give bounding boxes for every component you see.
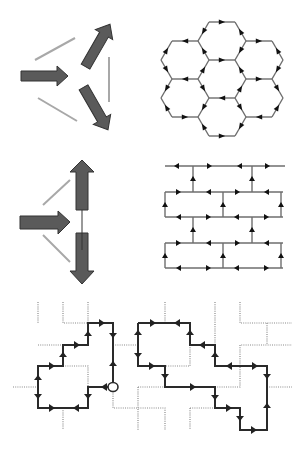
arrowhead-icon bbox=[200, 67, 205, 74]
arrowhead-up-icon bbox=[190, 227, 196, 232]
arrowhead-icon bbox=[163, 48, 168, 55]
arrowhead-left-icon bbox=[264, 240, 269, 246]
panel-d-brick-lattice bbox=[162, 163, 285, 271]
arrowhead-left-icon bbox=[237, 163, 242, 169]
panel-b-hex-lattice bbox=[161, 19, 283, 138]
arrowhead-left-icon bbox=[176, 265, 181, 271]
arrowhead-icon bbox=[219, 19, 225, 24]
arrowhead-left-icon bbox=[199, 341, 205, 349]
arrowhead-icon bbox=[274, 105, 279, 112]
panel-e-loop-grid bbox=[13, 302, 292, 434]
panel-a-three-arrows bbox=[21, 19, 119, 135]
arrowhead-icon bbox=[276, 48, 281, 55]
arrowhead-right-icon bbox=[206, 265, 211, 271]
up-right-arrow-icon bbox=[77, 19, 119, 71]
arrowhead-down-icon bbox=[134, 353, 142, 358]
arrowhead-up-icon bbox=[249, 176, 255, 181]
arrowhead-up-icon bbox=[249, 227, 255, 232]
arrowhead-right-icon bbox=[176, 189, 181, 195]
arrowhead-left-icon bbox=[264, 189, 269, 195]
arrowhead-down-icon bbox=[263, 374, 271, 379]
arrowhead-down-icon bbox=[84, 394, 92, 399]
arrowhead-icon bbox=[182, 114, 188, 119]
arrowhead-up-icon bbox=[263, 403, 271, 408]
arrowhead-up-icon bbox=[278, 202, 284, 207]
arrowhead-up-icon bbox=[84, 331, 92, 336]
arrowhead-icon bbox=[219, 133, 225, 138]
arrowhead-icon bbox=[276, 65, 281, 72]
arrowhead-left-icon bbox=[226, 362, 232, 370]
arrowhead-right-icon bbox=[207, 163, 212, 169]
arrowhead-up-icon bbox=[190, 176, 196, 181]
arrowhead-down-icon bbox=[161, 374, 169, 379]
arrowhead-up-icon bbox=[220, 202, 226, 207]
arrowhead-right-icon bbox=[149, 362, 155, 370]
up-arrow-icon bbox=[70, 160, 94, 210]
arrowhead-down-icon bbox=[211, 395, 219, 400]
arrowhead-right-icon bbox=[265, 163, 270, 169]
right-arrow-icon bbox=[20, 211, 70, 234]
arrowhead-icon bbox=[202, 103, 207, 110]
arrowhead-up-icon bbox=[59, 352, 67, 357]
arrowhead-left-icon bbox=[73, 404, 79, 412]
arrowhead-icon bbox=[182, 38, 188, 43]
arrowhead-right-icon bbox=[251, 426, 257, 434]
arrowhead-right-icon bbox=[74, 341, 80, 349]
arrowhead-icon bbox=[165, 105, 170, 112]
arrowhead-up-icon bbox=[278, 253, 284, 258]
right-arrow-icon bbox=[21, 66, 68, 86]
arrowhead-up-icon bbox=[162, 202, 168, 207]
loop-path-right bbox=[138, 323, 267, 430]
arrowhead-icon bbox=[202, 124, 207, 131]
arrowhead-right-icon bbox=[176, 240, 181, 246]
arrowhead-right-icon bbox=[99, 319, 105, 327]
gray-edge-line bbox=[35, 38, 75, 60]
gray-edge-line bbox=[38, 98, 77, 121]
arrowhead-left-icon bbox=[234, 214, 239, 220]
panel-c-split-arrows bbox=[20, 160, 94, 284]
arrowhead-icon bbox=[219, 95, 225, 100]
arrowhead-up-icon bbox=[162, 253, 168, 258]
arrowhead-right-icon bbox=[49, 404, 55, 412]
arrowhead-right-icon bbox=[150, 319, 156, 327]
arrowhead-left-icon bbox=[206, 240, 211, 246]
arrowhead-icon bbox=[239, 29, 244, 36]
arrowhead-left-icon bbox=[234, 265, 239, 271]
arrowhead-right-icon bbox=[235, 189, 240, 195]
arrowhead-icon bbox=[202, 27, 207, 34]
arrowhead-icon bbox=[256, 38, 262, 43]
arrowhead-icon bbox=[239, 67, 244, 74]
arrowhead-icon bbox=[239, 122, 244, 129]
arrowhead-right-icon bbox=[264, 214, 269, 220]
arrowhead-icon bbox=[165, 84, 170, 91]
arrowhead-icon bbox=[200, 84, 205, 91]
arrowhead-right-icon bbox=[264, 265, 269, 271]
arrowhead-up-icon bbox=[134, 330, 142, 335]
arrowhead-right-icon bbox=[235, 240, 240, 246]
arrowhead-down-icon bbox=[34, 394, 42, 399]
figure-canvas bbox=[0, 0, 306, 453]
start-marker-circle bbox=[108, 383, 118, 392]
arrowhead-up-icon bbox=[109, 361, 117, 366]
arrowhead-left-icon bbox=[101, 383, 107, 391]
arrowhead-icon bbox=[219, 57, 225, 62]
gray-edge-line bbox=[43, 235, 70, 262]
arrowhead-icon bbox=[202, 48, 207, 55]
arrowhead-right-icon bbox=[190, 383, 196, 391]
arrowhead-left-icon bbox=[174, 163, 179, 169]
arrowhead-icon bbox=[237, 103, 242, 110]
arrowhead-up-icon bbox=[220, 253, 226, 258]
arrowhead-icon bbox=[239, 46, 244, 53]
arrowhead-icon bbox=[182, 76, 188, 81]
arrowhead-icon bbox=[256, 114, 262, 119]
arrowhead-left-icon bbox=[176, 214, 181, 220]
arrowhead-right-icon bbox=[226, 404, 232, 412]
arrowhead-left-icon bbox=[206, 189, 211, 195]
arrowhead-up-icon bbox=[34, 375, 42, 380]
arrowhead-up-icon bbox=[186, 330, 194, 335]
down-right-arrow-icon bbox=[75, 82, 117, 134]
arrowhead-up-icon bbox=[211, 352, 219, 357]
arrowhead-left-icon bbox=[174, 319, 180, 327]
arrowhead-icon bbox=[163, 65, 168, 72]
arrowhead-right-icon bbox=[252, 362, 258, 370]
